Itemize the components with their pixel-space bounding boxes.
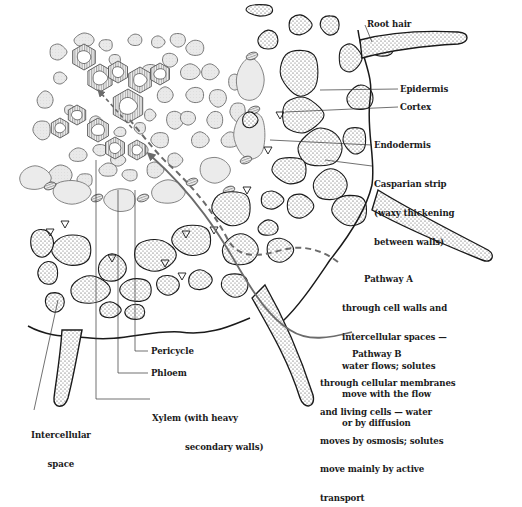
- cortex-cell: [135, 239, 177, 271]
- cortex-cell: [339, 44, 362, 72]
- stele-parenchyma-cell: [50, 44, 67, 60]
- label-phloem: Phloem: [151, 369, 187, 379]
- stele-parenchyma-cell: [202, 64, 220, 80]
- intercellular-space-marker: [178, 273, 186, 280]
- stele-parenchyma-cell: [99, 40, 112, 51]
- intercellular-space-marker: [61, 221, 69, 228]
- label-pathway-b: Pathway B through cellular membranes and…: [320, 331, 456, 507]
- pathway-b-line-2: and living cells — water: [320, 408, 456, 418]
- pathway-a-title: Pathway A: [342, 275, 447, 285]
- casparian-line-2: (waxy thickening: [374, 209, 454, 219]
- stele-parenchyma-cell: [54, 72, 67, 84]
- cortex-cell: [261, 191, 284, 209]
- cortex-cell: [45, 293, 64, 313]
- stele-parenchyma-cell: [151, 133, 169, 148]
- label-root-hair: Root hair: [367, 20, 411, 30]
- casparian-strip: [136, 193, 150, 204]
- casparian-line-3: between walls): [374, 238, 454, 248]
- cortex-cell: [38, 261, 58, 284]
- xylem-vessel-lumen: [77, 51, 91, 64]
- stele-parenchyma-cell: [186, 87, 204, 102]
- stele-parenchyma-cell: [152, 36, 166, 48]
- endodermis-cell: [104, 189, 135, 212]
- xylem-line-1: Xylem (with heavy: [152, 414, 263, 424]
- stele-parenchyma-cell: [192, 132, 210, 148]
- stele-parenchyma-cell: [207, 111, 223, 128]
- cortex-cell: [313, 169, 347, 200]
- label-leader-line: [320, 89, 398, 90]
- stele-parenchyma-cell: [37, 91, 53, 108]
- label-cortex: Cortex: [400, 103, 431, 113]
- cortex-cell: [298, 128, 342, 166]
- stele-parenchyma-cell: [162, 53, 177, 67]
- xylem-line-2: secondary walls): [152, 443, 263, 453]
- cortex-cell: [283, 97, 324, 133]
- cortex-cell: [258, 30, 278, 49]
- stele-parenchyma-cell: [186, 40, 204, 55]
- stele-parenchyma-cell: [128, 34, 142, 45]
- pathway-a-line-1: through cell walls and: [342, 304, 447, 314]
- label-endodermis: Endodermis: [374, 141, 431, 151]
- label-epidermis: Epidermis: [400, 85, 448, 95]
- stele-parenchyma-cell: [180, 64, 200, 80]
- cortex-cell: [332, 195, 367, 225]
- stele-parenchyma-cell: [122, 170, 137, 181]
- label-intercellular-space: Intercellular space: [31, 412, 91, 489]
- intercellular-space-marker: [264, 147, 272, 154]
- casparian-line-1: Casparian strip: [374, 180, 454, 190]
- stele-parenchyma-cell: [93, 145, 107, 156]
- stele-parenchyma-cell: [99, 163, 117, 176]
- stele-parenchyma-cell: [69, 148, 87, 162]
- cortex-cell: [98, 254, 126, 281]
- stele-parenchyma-cell: [209, 90, 226, 108]
- cortex-cell: [258, 220, 278, 235]
- cortex-cell: [289, 15, 312, 35]
- pathway-b-line-3: moves by osmosis; solutes: [320, 437, 456, 447]
- stele-parenchyma-cell: [33, 121, 50, 140]
- stele-parenchyma-cell: [114, 127, 126, 136]
- endodermis-cell: [236, 58, 264, 101]
- cortex-cell: [320, 16, 339, 35]
- endodermis-cell: [152, 180, 186, 203]
- label-xylem: Xylem (with heavy secondary walls): [152, 395, 263, 472]
- stele-region: [20, 33, 265, 212]
- cortex-cell: [189, 270, 213, 290]
- casparian-strip: [90, 193, 104, 204]
- cortex-cell: [31, 230, 54, 258]
- cortex-cell: [246, 5, 273, 17]
- pathway-b-title: Pathway B: [320, 350, 456, 360]
- root-hair: [54, 330, 82, 406]
- cortex-cell: [343, 128, 366, 154]
- label-pericycle: Pericycle: [151, 347, 194, 357]
- stele-parenchyma-cell: [157, 87, 173, 103]
- xylem-vessel-lumen: [154, 69, 166, 79]
- intercellular-line-1: Intercellular: [31, 431, 91, 441]
- intercellular-line-2: space: [31, 460, 91, 470]
- pathway-b-line-1: through cellular membranes: [320, 379, 456, 389]
- intercellular-space-marker: [243, 187, 251, 194]
- cortex-cell: [157, 275, 180, 295]
- cortex-cell: [272, 158, 306, 184]
- cortex-cell: [280, 50, 318, 96]
- cortex-cell: [120, 279, 152, 302]
- xylem-vessel-lumen: [109, 143, 121, 154]
- cortex-cell: [172, 225, 211, 255]
- root-hair: [360, 31, 467, 58]
- pathway-b-line-4: move mainly by active: [320, 465, 456, 475]
- xylem-vessel-lumen: [112, 67, 124, 78]
- label-casparian-strip: Casparian strip (waxy thickening between…: [374, 161, 454, 267]
- pathway-b-line-5: transport: [320, 494, 456, 504]
- cortex-cell: [287, 194, 314, 218]
- cortex-cell: [52, 235, 91, 265]
- endodermis-cell: [53, 180, 91, 204]
- stele-parenchyma-cell: [170, 34, 185, 48]
- stele-parenchyma-cell: [145, 109, 156, 121]
- label-leader-line: [135, 190, 148, 351]
- stele-parenchyma-cell: [180, 111, 195, 125]
- endodermis-cell: [200, 157, 230, 183]
